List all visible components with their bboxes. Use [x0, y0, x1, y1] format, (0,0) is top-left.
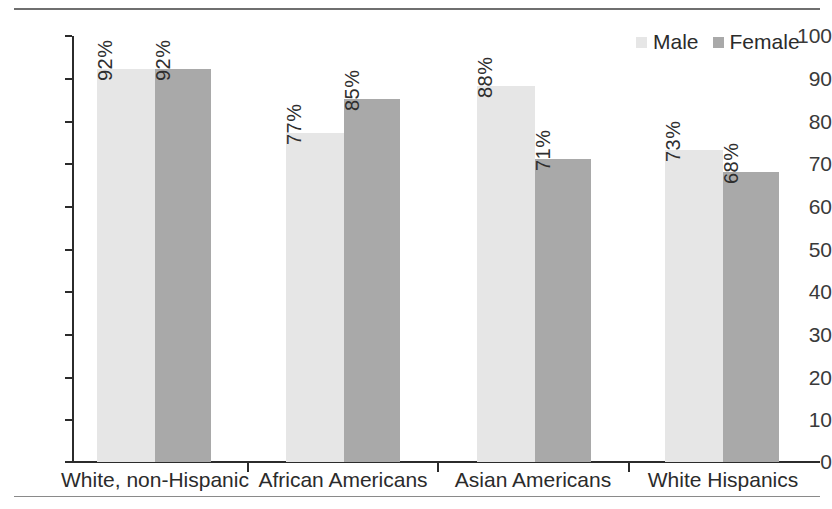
y-axis-tick-70	[65, 163, 72, 165]
legend-label-female: Female	[730, 30, 800, 54]
bar-white-non-hispanic-male	[97, 69, 155, 462]
bar-chart-plot-area: 100 90 80 70 60 50 40 30 20 10 0 92% 92%…	[0, 0, 832, 509]
value-label-white-hispanics-female: 68%	[720, 142, 743, 184]
bar-white-hispanics-male	[665, 150, 723, 462]
y-axis-tick-60	[65, 206, 72, 208]
value-label-asian-americans-female: 71%	[532, 129, 555, 171]
legend-item-female: Female	[713, 30, 800, 54]
legend-swatch-female-icon	[713, 37, 724, 48]
y-axis-label-40: 40	[780, 280, 832, 304]
bar-asian-americans-female	[535, 159, 591, 462]
value-label-white-hispanics-male: 73%	[662, 120, 685, 162]
x-axis-category-white-non-hispanic: White, non-Hispanic	[60, 468, 250, 492]
chart-legend: Male Female	[636, 30, 800, 54]
legend-label-male: Male	[653, 30, 699, 54]
y-axis-label-70: 70	[780, 152, 832, 176]
y-axis-tick-50	[65, 249, 72, 251]
y-axis-label-80: 80	[780, 110, 832, 134]
x-axis-separator-tick-2	[437, 463, 439, 472]
y-axis-label-20: 20	[780, 366, 832, 390]
y-axis-tick-30	[65, 334, 72, 336]
x-axis-category-african-americans: African Americans	[250, 468, 436, 492]
legend-item-male: Male	[636, 30, 699, 54]
y-axis-tick-90	[65, 78, 72, 80]
bar-asian-americans-male	[477, 86, 535, 462]
y-axis-label-90: 90	[780, 67, 832, 91]
y-axis-tick-10	[65, 419, 72, 421]
y-axis-label-60: 60	[780, 195, 832, 219]
y-axis-tick-0	[65, 461, 72, 463]
bar-african-americans-female	[344, 99, 400, 462]
y-axis-tick-20	[65, 377, 72, 379]
y-axis-tick-80	[65, 121, 72, 123]
y-axis-tick-100	[65, 35, 72, 37]
x-axis-category-white-hispanics: White Hispanics	[630, 468, 816, 492]
bar-white-hispanics-female	[723, 172, 779, 462]
y-axis-tick-40	[65, 291, 72, 293]
y-axis-spine	[72, 36, 74, 463]
legend-swatch-male-icon	[636, 37, 647, 48]
bar-white-non-hispanic-female	[155, 69, 211, 462]
value-label-asian-americans-male: 88%	[474, 56, 497, 98]
value-label-white-non-hispanic-female: 92%	[152, 39, 175, 81]
x-axis-category-asian-americans: Asian Americans	[440, 468, 626, 492]
y-axis-label-30: 30	[780, 323, 832, 347]
value-label-african-americans-male: 77%	[283, 103, 306, 145]
chart-page: 100 90 80 70 60 50 40 30 20 10 0 92% 92%…	[0, 0, 832, 509]
value-label-white-non-hispanic-male: 92%	[94, 39, 117, 81]
y-axis-label-10: 10	[780, 408, 832, 432]
y-axis-label-50: 50	[780, 238, 832, 262]
value-label-african-americans-female: 85%	[341, 69, 364, 111]
bar-african-americans-male	[286, 133, 344, 462]
